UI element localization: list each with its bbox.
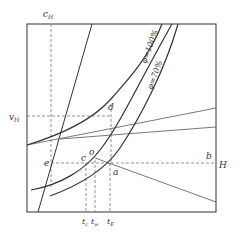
t-w-label: tw — [91, 217, 99, 227]
t-c-label: tc — [82, 217, 88, 227]
steep-line — [38, 24, 92, 212]
point-d-label: d — [108, 102, 114, 112]
o-to-right-line — [95, 158, 216, 202]
point-a-label: a — [113, 167, 118, 177]
phi-100-label: φ=100% — [139, 28, 160, 65]
h-axis-label: H — [218, 160, 227, 170]
lower-shallow-line — [60, 127, 216, 139]
point-o-label: o — [89, 147, 95, 157]
phi-70-label: φ=70% — [145, 59, 164, 91]
point-e-label: e — [44, 158, 49, 168]
point-c-label: c — [81, 153, 86, 163]
upper-shallow-line — [27, 108, 216, 145]
diagram-canvas: cH vH H b d e o c a tc tw tE φ=100% φ=70… — [0, 0, 240, 238]
v-h-label: vH — [9, 112, 20, 123]
c-h-label: cH — [43, 9, 54, 20]
point-b-label: b — [206, 151, 212, 161]
t-e-label: tE — [107, 217, 114, 227]
upper-left-curve — [27, 24, 162, 145]
